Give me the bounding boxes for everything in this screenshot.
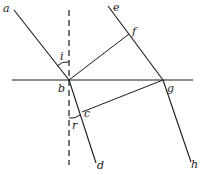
label-g: g (167, 83, 174, 94)
diagram-canvas: a e f i b g c r d h (0, 0, 206, 175)
label-a: a (3, 3, 10, 14)
label-h: h (191, 159, 198, 170)
label-b: b (58, 83, 65, 94)
label-f: f (132, 26, 136, 37)
incident-ray-ab (14, 10, 69, 80)
wavefront-cg (82, 80, 163, 112)
angle-r-arc (69, 115, 80, 118)
label-e: e (113, 2, 120, 13)
label-r: r (72, 120, 77, 131)
diagram-svg (0, 0, 206, 175)
label-d: d (97, 160, 104, 171)
wavefront-bf (69, 34, 129, 80)
label-i: i (60, 51, 64, 62)
label-c: c (84, 108, 90, 119)
incident-ray-eg (108, 6, 163, 80)
